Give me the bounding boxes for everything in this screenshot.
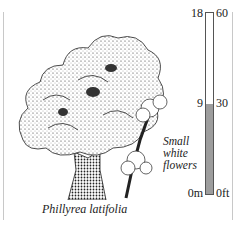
feet-tick-60: 60 xyxy=(216,7,228,19)
species-label: Phillyrea latifolia xyxy=(42,203,127,215)
feet-tick-30: 30 xyxy=(216,97,228,109)
left-border-line xyxy=(3,12,4,220)
meters-tick-9: 9 xyxy=(197,97,203,109)
tree-illustration xyxy=(8,20,178,200)
flower-annotation: Small white flowers xyxy=(163,135,197,171)
flower-annotation-line: Small xyxy=(163,135,197,147)
height-scale-bar xyxy=(205,12,214,195)
meters-tick-18: 18 xyxy=(191,7,203,19)
feet-tick-0: 0ft xyxy=(216,187,229,199)
meters-tick-0: 0m xyxy=(188,187,203,199)
right-border-line xyxy=(232,12,233,220)
plant-figure: Phillyrea latifolia Small white flowers … xyxy=(0,0,239,225)
height-fill xyxy=(206,104,213,195)
flower-annotation-line: flowers xyxy=(163,159,197,171)
flower-annotation-line: white xyxy=(163,147,197,159)
